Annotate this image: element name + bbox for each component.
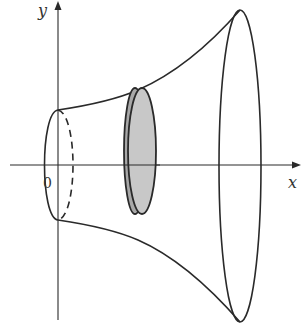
origin-label: 0 — [43, 175, 52, 191]
y-axis-label: y — [37, 1, 48, 20]
large-ellipse — [219, 10, 261, 322]
x-axis-label: x — [288, 173, 297, 192]
disk-cross-section — [124, 88, 156, 214]
lower-profile-curve — [58, 220, 240, 322]
disk-face — [128, 88, 156, 214]
y-axis-arrow-icon — [55, 1, 62, 10]
diagram-canvas: y x 0 — [0, 0, 303, 325]
solid-of-revolution-figure: y x 0 — [0, 0, 303, 325]
x-axis-arrow-icon — [292, 162, 301, 169]
